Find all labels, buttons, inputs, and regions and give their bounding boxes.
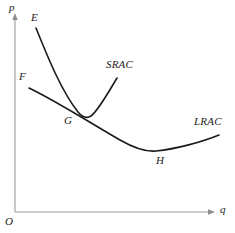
point-label-f: F <box>19 71 26 82</box>
point-label-h: H <box>156 155 164 166</box>
srac-curve <box>36 28 117 117</box>
origin-label: O <box>5 216 13 227</box>
y-axis-arrowhead <box>12 13 17 20</box>
cost-curve-figure: p q O E F G H SRAC LRAC <box>0 0 235 233</box>
point-label-e: E <box>31 12 38 23</box>
x-axis-label: q <box>220 204 226 215</box>
y-axis-label: p <box>9 2 15 13</box>
curve-label-lrac: LRAC <box>194 116 222 127</box>
curve-label-srac: SRAC <box>106 59 133 70</box>
x-axis-arrowhead <box>208 209 215 214</box>
lrac-curve <box>29 88 219 151</box>
point-label-g: G <box>64 115 72 126</box>
